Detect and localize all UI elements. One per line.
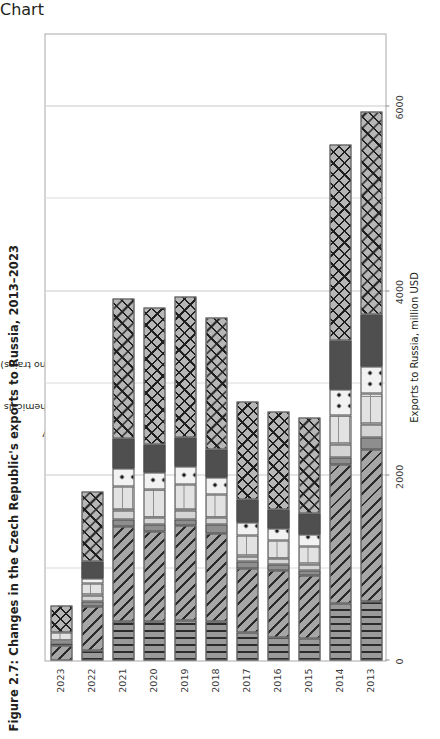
bar-segment	[143, 524, 165, 530]
value-tick-label: 6000	[393, 95, 404, 119]
category-tick-label: 2017	[241, 668, 252, 739]
bar-stack	[205, 317, 227, 660]
bar-segment	[81, 491, 103, 561]
bar-segment	[267, 411, 289, 509]
bar-segment	[205, 494, 227, 517]
bar-segment	[329, 415, 351, 444]
category-tick-label: 2019	[178, 668, 189, 739]
bar-stack	[267, 411, 289, 660]
bar-segment	[50, 632, 72, 640]
bar-segment	[143, 517, 165, 524]
bar-segment	[143, 444, 165, 472]
bar-segment	[298, 534, 320, 546]
bar-segment	[174, 510, 196, 518]
bar-segment	[298, 564, 320, 570]
bar-segment	[81, 595, 103, 601]
bar-stack	[50, 605, 72, 660]
category-tick-label: 2014	[334, 668, 345, 739]
bar-segment	[267, 637, 289, 660]
axis-tick	[385, 290, 389, 291]
bar-stack	[174, 296, 196, 660]
bar-segment	[174, 519, 196, 525]
bar-segment	[360, 424, 382, 438]
bar-segment	[81, 650, 103, 660]
bar-segment	[360, 111, 382, 314]
bar-segment	[174, 484, 196, 511]
bar-segment	[236, 632, 258, 660]
bar-segment	[81, 606, 103, 650]
axis-tick	[385, 474, 389, 475]
bar-segment	[329, 457, 351, 464]
category-tick-label: 2022	[85, 668, 96, 739]
bar-segment	[267, 509, 289, 528]
bar-segment	[112, 438, 134, 468]
bar-segment	[329, 144, 351, 340]
bar-segment	[236, 499, 258, 521]
bar-segment	[205, 477, 227, 494]
bar-segment	[174, 466, 196, 484]
axis-tick	[385, 659, 389, 660]
bar-segment	[360, 366, 382, 393]
bar-segment	[298, 575, 320, 638]
bar-segment	[205, 524, 227, 532]
bar-stack	[143, 307, 165, 660]
bars-group	[45, 34, 385, 660]
bar-stack	[298, 417, 320, 660]
category-tick-label: 2016	[272, 668, 283, 739]
bar-segment	[360, 449, 382, 600]
bar-stack	[81, 491, 103, 660]
bar-segment	[112, 486, 134, 510]
bar-segment	[329, 464, 351, 603]
bar-segment	[112, 468, 134, 486]
bar-segment	[205, 517, 227, 524]
bar-segment	[81, 601, 103, 606]
bar-segment	[267, 528, 289, 540]
category-tick-label: 2020	[147, 668, 158, 739]
category-tick-label: 2013	[365, 668, 376, 739]
bar-segment	[267, 564, 289, 570]
figure: Figure 2.7: Changes in the Czech Republi…	[0, 0, 440, 739]
bar-segment	[81, 583, 103, 595]
bar-segment	[205, 317, 227, 450]
bar-segment	[360, 601, 382, 660]
bar-stack	[329, 144, 351, 660]
bar-segment	[298, 546, 320, 564]
bar-segment	[236, 568, 258, 633]
value-tick-label: 2000	[393, 464, 404, 488]
bar-segment	[236, 535, 258, 555]
bar-segment	[174, 620, 196, 660]
bar-segment	[143, 489, 165, 517]
bar-segment	[81, 578, 103, 584]
bar-segment	[112, 526, 134, 621]
bar-segment	[112, 621, 134, 660]
bar-segment	[267, 540, 289, 558]
axis-tick	[385, 105, 389, 106]
bar-segment	[112, 510, 134, 518]
bar-segment	[360, 393, 382, 423]
category-tick-label: 2018	[210, 668, 221, 739]
bar-segment	[329, 389, 351, 415]
value-tick-label: 0	[393, 658, 404, 664]
bar-segment	[267, 558, 289, 564]
value-tick-label: 4000	[393, 280, 404, 304]
category-tick-label: 2015	[303, 668, 314, 739]
bar-segment	[298, 417, 320, 513]
bar-segment	[50, 645, 72, 660]
bar-segment	[236, 556, 258, 562]
bar-segment	[81, 561, 103, 578]
bar-segment	[205, 621, 227, 660]
value-axis-title: Exports to Russia, million USD	[408, 33, 419, 661]
bar-segment	[236, 561, 258, 567]
bar-segment	[329, 444, 351, 457]
bar-segment	[360, 437, 382, 449]
category-tick-label: 2023	[54, 668, 65, 739]
bar-segment	[143, 307, 165, 444]
bar-segment	[298, 570, 320, 576]
bar-segment	[112, 519, 134, 526]
bar-segment	[205, 450, 227, 478]
bar-segment	[267, 570, 289, 637]
plot-area	[44, 33, 386, 661]
bar-segment	[236, 522, 258, 536]
rotated-figure-wrapper: Figure 2.7: Changes in the Czech Republi…	[0, 0, 440, 739]
bar-segment	[143, 531, 165, 622]
